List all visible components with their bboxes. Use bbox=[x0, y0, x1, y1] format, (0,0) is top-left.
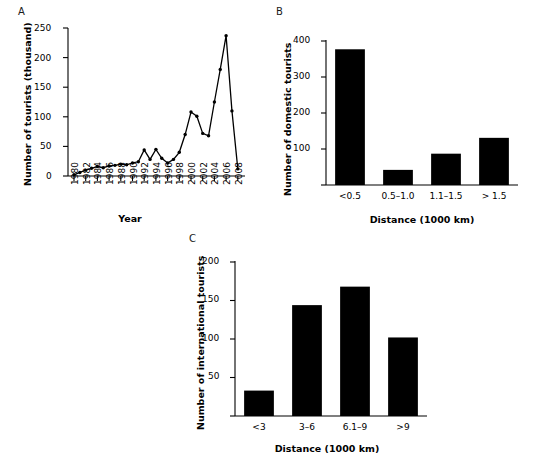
panel-c-bar bbox=[340, 287, 370, 416]
panel-c-letter: C bbox=[189, 233, 196, 244]
panel-b-bar bbox=[335, 49, 365, 185]
panel-a-ytick-0: 0 bbox=[46, 171, 52, 181]
panel-c-y-ticks bbox=[230, 262, 235, 416]
panel-b-ytick-100: 100 bbox=[293, 143, 310, 153]
panel-b-xtick-1: 0.5–1.0 bbox=[381, 191, 414, 201]
panel-c-ytick-50: 50 bbox=[208, 371, 219, 381]
panel-a-point bbox=[195, 115, 198, 118]
panel-c-bar bbox=[292, 305, 322, 416]
panel-c-svg bbox=[227, 261, 427, 421]
panel-a-y-ticks bbox=[63, 28, 68, 176]
panel-a-point bbox=[183, 133, 186, 136]
panel-a-xtick-1986: 1986 bbox=[105, 162, 115, 185]
panel-a-point bbox=[148, 158, 151, 161]
panel-a-point bbox=[213, 100, 216, 103]
panel-a-xtick-2002: 2002 bbox=[199, 162, 209, 185]
panel-b-ytick-200: 200 bbox=[293, 107, 310, 117]
panel-c-bars bbox=[244, 287, 418, 416]
panel-a-xtick-1996: 1996 bbox=[164, 162, 174, 185]
panel-a-xtick-1994: 1994 bbox=[152, 162, 162, 185]
panel-c-xtick-0: <3 bbox=[252, 422, 265, 432]
panel-c-ytick-200: 200 bbox=[202, 256, 219, 266]
panel-a-point bbox=[224, 34, 227, 37]
panel-b-bar bbox=[431, 154, 461, 185]
panel-c-xtick-1: 3–6 bbox=[299, 422, 315, 432]
panel-a-xtick-1990: 1990 bbox=[129, 162, 139, 185]
panel-a-ytick-200: 200 bbox=[34, 53, 51, 63]
panel-b: B Number of domestic tourists 100 200 30… bbox=[262, 0, 546, 232]
panel-a-point bbox=[172, 158, 175, 161]
panel-b-xlabel: Distance (1000 km) bbox=[342, 214, 502, 225]
panel-a-xtick-2000: 2000 bbox=[187, 162, 197, 185]
panel-b-plot bbox=[318, 40, 518, 190]
panel-a-point bbox=[189, 110, 192, 113]
panel-a-plot bbox=[60, 28, 245, 183]
panel-a-xtick-1998: 1998 bbox=[175, 162, 185, 185]
panel-a-ytick-50: 50 bbox=[40, 141, 51, 151]
panel-b-letter: B bbox=[276, 6, 283, 17]
panel-c-xlabel: Distance (1000 km) bbox=[247, 443, 407, 454]
panel-a-xtick-1984: 1984 bbox=[93, 162, 103, 185]
panel-b-xtick-3: > 1.5 bbox=[482, 191, 507, 201]
panel-a-xlabel: Year bbox=[100, 213, 160, 224]
panel-c-ytick-100: 100 bbox=[202, 333, 219, 343]
panel-a-series-line bbox=[74, 36, 238, 175]
panel-a-point bbox=[201, 132, 204, 135]
panel-a-xtick-1980: 1980 bbox=[70, 162, 80, 185]
panel-a-point bbox=[178, 151, 181, 154]
panel-c-plot bbox=[227, 261, 427, 421]
panel-b-xtick-2: 1.1–1.5 bbox=[429, 191, 462, 201]
panel-b-ytick-400: 400 bbox=[293, 35, 310, 45]
panel-a-point bbox=[219, 68, 222, 71]
panel-a-ytick-150: 150 bbox=[34, 82, 51, 92]
panel-c-xtick-2: 6.1–9 bbox=[343, 422, 368, 432]
panel-a-xtick-2008: 2008 bbox=[234, 162, 244, 185]
panel-c-ytick-150: 150 bbox=[202, 294, 219, 304]
panel-b-ylabel: Number of domestic tourists bbox=[282, 43, 293, 197]
panel-b-bar bbox=[479, 138, 509, 185]
panel-b-y-ticks bbox=[321, 41, 326, 185]
panel-a-ytick-250: 250 bbox=[34, 23, 51, 33]
panel-a-point bbox=[154, 148, 157, 151]
panel-c-xtick-3: >9 bbox=[396, 422, 409, 432]
panel-c: C Number of international tourists 50 10… bbox=[175, 229, 475, 465]
panel-a: A Number of tourists (thousand) bbox=[0, 0, 260, 230]
panel-a-point bbox=[160, 157, 163, 160]
panel-a-ytick-100: 100 bbox=[34, 112, 51, 122]
panel-b-ytick-300: 300 bbox=[293, 71, 310, 81]
panel-a-xtick-2006: 2006 bbox=[222, 162, 232, 185]
panel-a-xtick-1982: 1982 bbox=[82, 162, 92, 185]
panel-a-xtick-2004: 2004 bbox=[210, 162, 220, 185]
panel-a-point bbox=[230, 109, 233, 112]
panel-a-xtick-1988: 1988 bbox=[117, 162, 127, 185]
panel-a-letter: A bbox=[18, 6, 25, 17]
panel-a-point bbox=[143, 148, 146, 151]
panel-b-bar bbox=[383, 170, 413, 185]
panel-a-svg bbox=[60, 28, 245, 183]
panel-c-bar bbox=[388, 337, 418, 416]
panel-a-point bbox=[207, 134, 210, 137]
panel-a-xtick-1992: 1992 bbox=[140, 162, 150, 185]
panel-a-ylabel: Number of tourists (thousand) bbox=[22, 22, 33, 186]
panel-c-bar bbox=[244, 391, 274, 416]
panel-b-xtick-0: <0.5 bbox=[339, 191, 361, 201]
panel-b-svg bbox=[318, 40, 518, 190]
panel-b-bars bbox=[335, 49, 509, 185]
